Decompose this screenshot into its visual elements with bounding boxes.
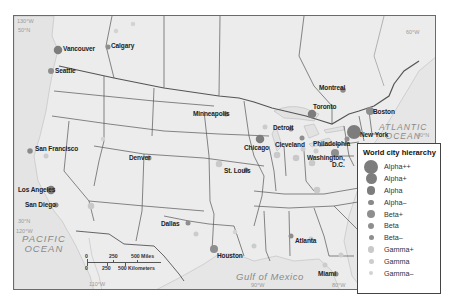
city-marker-icon: [274, 152, 281, 159]
city-marker-icon: [131, 22, 136, 27]
circle-marker-icon: [363, 200, 379, 206]
city-marker-icon: [194, 232, 199, 237]
circle-marker-icon: [363, 160, 379, 174]
circle-marker-icon: [363, 173, 379, 184]
city-label: Calgary: [111, 43, 134, 50]
city-marker-icon: [314, 187, 321, 194]
legend-title: World city hierarchy: [363, 148, 435, 157]
legend-item-label: Gamma–: [384, 269, 414, 278]
coord-label: 110°W: [89, 282, 105, 288]
city-label: Detroit: [273, 125, 293, 132]
city-label: San Francisco: [35, 146, 78, 153]
coord-label: 130°W: [17, 19, 34, 25]
city-marker-icon: [300, 136, 305, 141]
legend-item: Gamma–: [363, 267, 435, 279]
scale-km-250: 250: [102, 266, 111, 271]
legend-item-label: Gamma: [384, 257, 410, 266]
city-label: Denver: [129, 155, 150, 162]
scale-km-500: 500 Kilometers: [118, 266, 155, 271]
city-marker-icon: [347, 125, 361, 139]
city-label: Boston: [373, 109, 395, 116]
legend-item-label: Alpha: [384, 186, 402, 195]
legend-item: Beta+: [363, 208, 435, 220]
circle-marker-icon: [363, 186, 379, 195]
legend-item-label: Alpha–: [384, 198, 406, 207]
coord-label: 30°N: [18, 219, 30, 225]
scale-mile-500: 500 Miles: [131, 254, 154, 259]
city-label: Philadelphia: [313, 141, 350, 148]
city-label: Atlanta: [295, 238, 316, 245]
ocean-label-gulf: Gulf of Mexico: [236, 272, 304, 282]
city-label: Montreal: [319, 85, 345, 92]
city-marker-icon: [114, 29, 119, 34]
legend-item: Gamma: [363, 255, 435, 267]
city-label: San Diego: [25, 202, 56, 209]
city-marker-icon: [252, 244, 257, 249]
circle-marker-icon: [363, 259, 379, 264]
circle-marker-icon: [363, 223, 379, 229]
city-marker-icon: [106, 45, 111, 50]
coord-label: 50°N: [18, 28, 30, 34]
city-label: Miami: [318, 271, 336, 278]
city-marker-icon: [314, 149, 319, 154]
city-label: Houston: [217, 253, 243, 260]
legend-item: Beta: [363, 220, 435, 232]
scale-km-0: 0: [85, 266, 88, 271]
city-label: New York: [360, 132, 388, 139]
city-marker-icon: [289, 234, 294, 239]
scale-mile-250: 250: [109, 254, 118, 259]
city-marker-icon: [308, 110, 317, 119]
circle-marker-icon: [363, 235, 379, 240]
circle-marker-icon: [363, 210, 379, 218]
city-marker-icon: [263, 125, 268, 130]
scale-mile-0: 0: [85, 254, 88, 259]
city-label: Chicago: [244, 145, 269, 152]
ocean-label-pacific: PACIFICOCEAN: [22, 234, 66, 254]
legend-item-label: Beta–: [384, 233, 403, 242]
city-label: Minneapolis: [193, 111, 229, 118]
city-marker-icon: [216, 161, 223, 168]
city-label: Los Angeles: [18, 187, 55, 194]
city-marker-icon: [48, 68, 54, 74]
coord-label: 60°W: [406, 30, 420, 36]
legend-item: Alpha++: [363, 161, 435, 173]
legend-item: Gamma+: [363, 244, 435, 256]
legend-item-label: Alpha++: [384, 162, 411, 171]
coord-label: 40°N: [417, 133, 429, 139]
legend-item-label: Beta+: [384, 210, 403, 219]
legend: World city hierarchy Alpha++Alpha+AlphaA…: [357, 143, 441, 294]
legend-item-label: Beta: [384, 221, 399, 230]
city-marker-icon: [323, 263, 328, 268]
city-marker-icon: [44, 154, 49, 159]
city-marker-icon: [101, 137, 106, 142]
legend-item-label: Alpha+: [384, 174, 407, 183]
city-marker-icon: [186, 221, 191, 226]
city-label: Dallas: [161, 221, 180, 228]
city-label: St. Louis: [224, 168, 251, 175]
city-marker-icon: [339, 253, 344, 258]
circle-marker-icon: [363, 271, 379, 276]
city-label: Vancouver: [63, 46, 95, 53]
city-label: Toronto: [313, 104, 336, 111]
legend-item: Alpha: [363, 185, 435, 197]
city-marker-icon: [256, 135, 265, 144]
coord-label: 120°W: [16, 229, 33, 235]
city-marker-icon: [293, 155, 300, 162]
city-marker-icon: [54, 46, 63, 55]
city-label: Seattle: [55, 68, 76, 75]
coord-label: 80°W: [332, 283, 346, 289]
city-marker-icon: [233, 230, 238, 235]
legend-item: Alpha+: [363, 173, 435, 185]
coord-label: 90°W: [251, 283, 265, 289]
legend-item: Beta–: [363, 232, 435, 244]
legend-item-label: Gamma+: [384, 245, 414, 254]
city-marker-icon: [27, 148, 33, 154]
scale-bar: 0 250 500 Miles 0 250 500 Kilometers: [85, 254, 165, 274]
legend-item: Alpha–: [363, 196, 435, 208]
city-marker-icon: [88, 203, 95, 210]
circle-marker-icon: [363, 246, 379, 253]
city-label: Cleveland: [275, 142, 305, 149]
city-label: Washington,D.C.: [307, 155, 345, 168]
